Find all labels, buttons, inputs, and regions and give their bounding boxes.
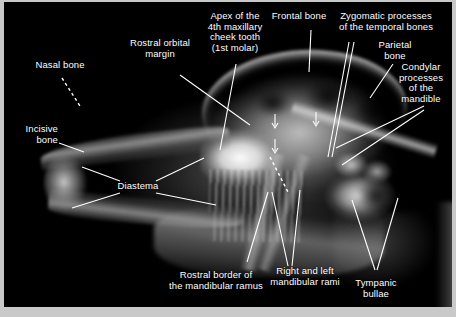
- leader-frontal-bone: [309, 30, 311, 72]
- leader-incisive-bone: [59, 143, 84, 152]
- leader-nasal-bone: [62, 78, 80, 106]
- leader-condylar-process-2: [342, 110, 424, 165]
- leader-diastema-upper-left: [82, 167, 120, 181]
- leader-zygomatic-process-2: [332, 42, 354, 157]
- leader-zygomatic-process-1: [328, 42, 349, 157]
- leader-rostral-orbital-margin: [180, 75, 250, 125]
- label-incisive-bone: Incisive bone: [4, 124, 58, 145]
- label-condylar-processes: Condylar processes of the mandible: [390, 62, 452, 104]
- figure-container: Nasal bone Incisive bone Rostral orbital…: [0, 0, 456, 317]
- leader-mandibular-rami-1: [272, 192, 288, 266]
- label-diastema: Diastema: [110, 181, 166, 192]
- leader-tympanic-bullae-2: [377, 198, 398, 270]
- label-mandibular-rami: Right and left mandibular rami: [262, 266, 348, 287]
- label-nasal-bone: Nasal bone: [16, 60, 104, 71]
- leader-condylar-process-1: [336, 106, 424, 148]
- label-tympanic-bullae: Tympanic bullae: [344, 278, 408, 299]
- leader-rostral-border-ramus: [247, 192, 268, 262]
- marker-arrow-group: [272, 112, 319, 153]
- radiograph-image: Nasal bone Incisive bone Rostral orbital…: [4, 2, 452, 307]
- leader-mandibular-rami-2: [292, 190, 300, 266]
- leader-dashed-internal-border: [270, 157, 288, 192]
- leader-tympanic-bullae-1: [352, 200, 375, 270]
- label-zygomatic-processes: Zygomatic processes of the temporal bone…: [324, 11, 448, 32]
- leader-diastema-lower-left: [72, 193, 120, 208]
- leader-diastema-lower-right: [156, 193, 216, 205]
- leader-diastema-upper-right: [156, 158, 204, 181]
- leader-apex-cheek-tooth: [220, 64, 236, 150]
- label-parietal-bone: Parietal bone: [368, 40, 422, 61]
